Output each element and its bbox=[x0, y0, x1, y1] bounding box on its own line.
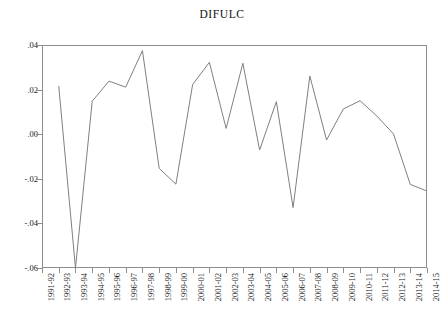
x-axis-tick-mark bbox=[410, 268, 411, 273]
x-axis-tick-mark bbox=[42, 268, 43, 273]
y-axis-labels: .04.02.00-.02-.04-.06 bbox=[0, 0, 38, 328]
x-axis-tick-mark bbox=[260, 268, 261, 273]
x-axis-tick-mark bbox=[394, 268, 395, 273]
x-axis-tick-mark bbox=[75, 268, 76, 273]
x-axis-tick-mark bbox=[360, 268, 361, 273]
x-axis-tick-label: 2001-02 bbox=[213, 273, 223, 301]
x-axis-tick-label: 1992-93 bbox=[62, 273, 72, 301]
x-axis-tick-mark bbox=[327, 268, 328, 273]
x-axis-tick-mark bbox=[276, 268, 277, 273]
x-axis-tick-label: 1995-96 bbox=[112, 273, 122, 301]
x-axis-tick-mark bbox=[209, 268, 210, 273]
plot-area bbox=[42, 45, 427, 268]
x-axis-tick-label: 1998-99 bbox=[163, 273, 173, 301]
x-axis-tick-label: 2000-01 bbox=[196, 273, 206, 301]
x-axis-tick-mark bbox=[126, 268, 127, 273]
x-axis-tick-mark bbox=[59, 268, 60, 273]
x-axis-tick-label: 2012-13 bbox=[397, 273, 407, 301]
data-series-line bbox=[59, 51, 427, 268]
x-axis-tick-mark bbox=[293, 268, 294, 273]
x-axis-tick-label: 2004-05 bbox=[263, 273, 273, 301]
x-axis-tick-label: 2009-10 bbox=[347, 273, 357, 301]
x-axis-tick-mark bbox=[243, 268, 244, 273]
x-axis-tick-label: 2005-06 bbox=[280, 273, 290, 301]
x-axis-tick-label: 2007-08 bbox=[313, 273, 323, 301]
x-axis-tick-label: 2011-12 bbox=[380, 273, 390, 301]
x-axis-tick-mark bbox=[427, 268, 428, 273]
x-axis-tick-mark bbox=[377, 268, 378, 273]
x-axis-tick-label: 1993-94 bbox=[79, 273, 89, 301]
x-axis-tick-label: 1994-95 bbox=[96, 273, 106, 301]
chart-title: DIFULC bbox=[0, 8, 444, 20]
x-axis-tick-mark bbox=[226, 268, 227, 273]
x-axis-tick-label: 2013-14 bbox=[414, 273, 424, 301]
x-axis-tick-mark bbox=[109, 268, 110, 273]
x-axis-tick-label: 2003-04 bbox=[246, 273, 256, 301]
x-axis-tick-label: 1999-00 bbox=[179, 273, 189, 301]
x-axis-tick-label: 2014-15 bbox=[431, 273, 441, 301]
x-axis-tick-mark bbox=[142, 268, 143, 273]
x-axis-tick-mark bbox=[159, 268, 160, 273]
x-axis-tick-label: 2006-07 bbox=[297, 273, 307, 301]
chart-container: DIFULC .04.02.00-.02-.04-.06 1991-921992… bbox=[0, 0, 444, 328]
x-axis-tick-mark bbox=[92, 268, 93, 273]
x-axis-tick-mark bbox=[176, 268, 177, 273]
x-axis-tick-label: 1996-97 bbox=[129, 273, 139, 301]
x-axis-tick-mark bbox=[310, 268, 311, 273]
x-axis-tick-label: 2008-09 bbox=[330, 273, 340, 301]
x-axis-tick-mark bbox=[343, 268, 344, 273]
x-axis-tick-label: 2002-03 bbox=[230, 273, 240, 301]
x-axis-tick-label: 2010-11 bbox=[364, 273, 374, 301]
x-axis-tick-label: 1997-98 bbox=[146, 273, 156, 301]
x-axis-tick-label: 1991-92 bbox=[46, 273, 56, 301]
x-axis-tick-mark bbox=[193, 268, 194, 273]
